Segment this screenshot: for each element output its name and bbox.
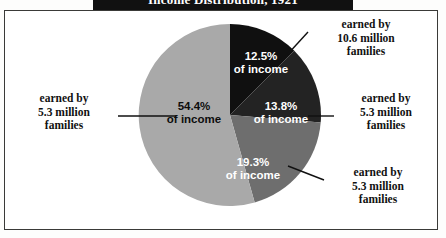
slice-label-19-3: 19.3% of income (216, 156, 290, 182)
slice-label-13-8: 13.8% of income (244, 100, 318, 126)
callout-line-1: earned by (10, 92, 118, 106)
callout-line-2: 10.6 million (312, 32, 420, 46)
slice-percent-13-8: 13.8% (244, 100, 318, 113)
callout-line-3: families (326, 193, 430, 207)
slice-sub-54-4: of income (157, 113, 231, 126)
callout-bottom-right-5-3-million-families: earned by 5.3 million families (326, 166, 430, 207)
chart-title-banner: Income Distribution, 1921 (93, 0, 353, 10)
callout-line-3: families (312, 45, 420, 59)
callout-line-3: families (10, 119, 118, 133)
callout-line-1: earned by (312, 18, 420, 32)
callout-line-2: 5.3 million (336, 106, 436, 120)
callout-line-3: families (336, 119, 436, 133)
slice-sub-12-5: of income (224, 63, 298, 76)
callout-10-6-million-families: earned by 10.6 million families (312, 18, 420, 59)
callout-right-5-3-million-families: earned by 5.3 million families (336, 92, 436, 133)
slice-percent-54-4: 54.4% (157, 100, 231, 113)
chart-canvas: Income Distribution, 1921 12.5% of incom… (0, 0, 446, 238)
slice-sub-13-8: of income (244, 113, 318, 126)
slice-percent-19-3: 19.3% (216, 156, 290, 169)
callout-line-2: 5.3 million (10, 106, 118, 120)
callout-line-2: 5.3 million (326, 180, 430, 194)
callout-line-1: earned by (326, 166, 430, 180)
slice-label-54-4: 54.4% of income (157, 100, 231, 126)
callout-left-5-3-million-families: earned by 5.3 million families (10, 92, 118, 133)
slice-label-12-5: 12.5% of income (224, 50, 298, 76)
slice-sub-19-3: of income (216, 169, 290, 182)
slice-percent-12-5: 12.5% (224, 50, 298, 63)
callout-line-1: earned by (336, 92, 436, 106)
